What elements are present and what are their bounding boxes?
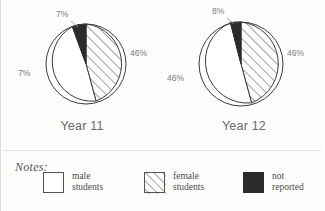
pie-label-female-year-12: 46% (287, 48, 304, 58)
hatched-square-fill (145, 173, 166, 194)
charts-area: 7% 7% 46% Year 11 (1, 0, 325, 150)
pie-label-not-reported-year-12: 8% (212, 6, 224, 16)
pie-label-not-reported-year-11: 7% (56, 9, 68, 19)
legend-label-line2: reported (272, 182, 304, 193)
legend-label-female-students: female students (173, 171, 204, 192)
legend-label-male-students: male students (72, 171, 103, 192)
legend-label-line1: female (173, 171, 204, 182)
pie-year-11-svg (1, 0, 163, 120)
pie-caption-year-11: Year 11 (1, 119, 163, 133)
pie-year-11-graphic: 7% 7% 46% (1, 0, 163, 120)
black-square-icon (243, 172, 264, 193)
legend-label-not-reported: not reported (272, 171, 304, 192)
pie-label-male-year-11: 7% (18, 68, 30, 78)
pie-caption-year-12: Year 12 (163, 119, 325, 133)
pie-chart-year-12: 8% 46% 46% Year 12 (163, 0, 325, 150)
legend-label-line2: students (173, 182, 204, 193)
pie-label-male-year-12: 46% (167, 73, 184, 83)
notes-legend: Notes: male students fema (1, 152, 325, 211)
pie-label-female-year-11: 46% (130, 48, 147, 58)
hatched-square-icon (144, 172, 165, 193)
white-square-icon (43, 172, 64, 193)
legend-label-line1: not (272, 171, 304, 182)
figure-frame: 7% 7% 46% Year 11 (0, 0, 325, 211)
legend-label-line2: students (72, 182, 103, 193)
pie-year-12-svg (163, 0, 325, 120)
notes-divider (3, 150, 321, 151)
pie-year-12-graphic: 8% 46% 46% (163, 0, 325, 120)
pie-chart-year-11: 7% 7% 46% Year 11 (1, 0, 163, 150)
legend-label-line1: male (72, 171, 103, 182)
